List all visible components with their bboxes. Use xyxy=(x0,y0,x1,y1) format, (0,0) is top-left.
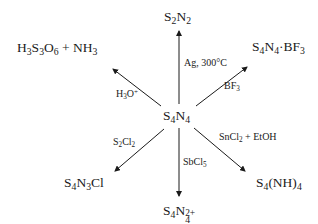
center-s4n4: S4N4 xyxy=(163,109,190,123)
reagent-h3o-plus: H3O+ xyxy=(116,89,138,99)
product-s4n4-2plus: S4N2+4 xyxy=(163,204,196,218)
reagent-s2cl2: S2Cl2 xyxy=(113,137,135,147)
product-s2n2: S2N2 xyxy=(164,10,191,24)
reagent-sbcl5: SbCl5 xyxy=(183,157,207,167)
reagent-ag-300c: Ag, 300°C xyxy=(184,58,227,68)
reagent-sncl2-etoh: SnCl2 + EtOH xyxy=(219,132,277,142)
product-s4nh4: S4(NH)4 xyxy=(256,176,302,190)
product-h3s3o6-nh3: H3S3O6 + NH3 xyxy=(17,41,97,55)
product-s4n4-bf3: S4N4·BF3 xyxy=(252,40,305,54)
reagent-bf3: BF3 xyxy=(224,81,240,91)
product-s4n3cl: S4N3Cl xyxy=(64,176,104,190)
reaction-arrows xyxy=(0,0,318,224)
